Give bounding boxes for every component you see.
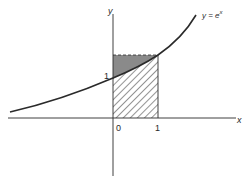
x-axis-label: x (236, 115, 242, 125)
y-axis-label: y (107, 6, 113, 16)
exponential-area-diagram: y x y = ex 1 0 1 (0, 0, 250, 181)
exponential-curve (10, 15, 196, 112)
curve-label-exponent: x (219, 9, 224, 15)
y-tick-1: 1 (104, 71, 109, 81)
x-tick-0: 0 (116, 123, 121, 133)
curve-label: y = ex (201, 9, 224, 20)
curve-label-base: y = e (201, 11, 220, 20)
x-tick-1: 1 (155, 123, 160, 133)
